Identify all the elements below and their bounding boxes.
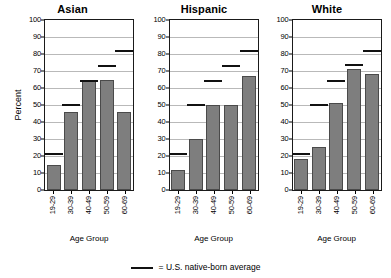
bar (117, 112, 131, 190)
bar (347, 69, 361, 190)
bar-slot (312, 20, 326, 190)
bar (312, 147, 326, 190)
x-axis-title: Age Group (292, 234, 382, 243)
y-tick-label: 70 (158, 67, 166, 75)
y-tick-label: 100 (29, 16, 41, 24)
reference-average-line (204, 80, 222, 82)
reference-average-line (115, 50, 133, 52)
reference-average-line (327, 80, 345, 82)
legend: = U.S. native-born average (0, 263, 391, 272)
x-tick-slot: 60-69 (243, 191, 257, 233)
bar (242, 76, 256, 190)
x-tick-slot: 19-29 (171, 191, 185, 233)
x-tick-label: 60-69 (246, 196, 254, 214)
x-tick-labels: 19-2930-3940-4950-5960-69 (169, 191, 259, 233)
bar-group (293, 20, 381, 190)
bar-slot (47, 20, 61, 190)
x-tick-label: 19-29 (49, 196, 57, 214)
x-tick-label: 30-39 (67, 196, 75, 214)
y-axis: 0102030405060708090100 (150, 19, 169, 191)
y-tick-label: 70 (281, 67, 289, 75)
legend-label: = U.S. native-born average (159, 263, 261, 272)
reference-average-line (169, 153, 187, 155)
y-tick-label: 80 (158, 50, 166, 58)
bar-slot (117, 20, 131, 190)
panel-hispanic: Hispanic 0102030405060708090100 19-2930-… (145, 0, 263, 250)
y-tick-label: 50 (281, 101, 289, 109)
reference-average-line (240, 50, 258, 52)
x-tick-mark (232, 191, 233, 194)
x-tick-slot: 30-39 (64, 191, 78, 233)
x-tick-slot: 19-29 (294, 191, 308, 233)
x-tick-mark (125, 191, 126, 194)
y-axis-label: Percent (14, 89, 23, 120)
x-axis: 19-2930-3940-4950-5960-69 (150, 191, 259, 233)
y-tick-label: 10 (158, 169, 166, 177)
y-tick-label: 40 (281, 118, 289, 126)
bar (47, 165, 61, 191)
reference-average-line (310, 104, 328, 106)
chart-figure: Asian Percent 0102030405060708090100 19-… (0, 0, 391, 278)
legend-line-icon (131, 267, 153, 269)
x-tick-slot: 50-59 (348, 191, 362, 233)
bar (82, 80, 96, 190)
x-tick-slot: 60-69 (366, 191, 380, 233)
x-tick-mark (319, 191, 320, 194)
y-tick-label: 20 (158, 152, 166, 160)
bar-group (170, 20, 258, 190)
x-tick-mark (196, 191, 197, 194)
reference-average-line (363, 50, 381, 52)
x-tick-label: 50-59 (103, 196, 111, 214)
reference-average-line (345, 64, 363, 66)
x-tick-slot: 40-49 (330, 191, 344, 233)
y-tick-label: 90 (281, 33, 289, 41)
y-tick-label: 30 (281, 135, 289, 143)
bar-slot (100, 20, 114, 190)
x-tick-label: 40-49 (210, 196, 218, 214)
bar-slot (64, 20, 78, 190)
y-tick-label: 80 (281, 50, 289, 58)
bar-slot (242, 20, 256, 190)
x-tick-label: 30-39 (315, 196, 323, 214)
x-tick-slot: 50-59 (100, 191, 114, 233)
bar-group (45, 20, 133, 190)
x-tick-label: 40-49 (333, 196, 341, 214)
bar (365, 74, 379, 190)
x-tick-mark (250, 191, 251, 194)
panel-row: Asian Percent 0102030405060708090100 19-… (0, 0, 391, 250)
x-tick-slot: 30-39 (189, 191, 203, 233)
bar-slot (206, 20, 220, 190)
bar (171, 170, 185, 190)
x-tick-label: 40-49 (85, 196, 93, 214)
y-tick-label: 50 (158, 101, 166, 109)
y-axis: 0102030405060708090100 (273, 19, 292, 191)
x-tick-slot: 40-49 (82, 191, 96, 233)
x-tick-slot: 30-39 (312, 191, 326, 233)
x-tick-label: 50-59 (228, 196, 236, 214)
x-tick-label: 60-69 (369, 196, 377, 214)
reference-average-line (292, 153, 310, 155)
bar (189, 139, 203, 190)
x-axis-title: Age Group (44, 234, 134, 243)
plot-wrapper: Percent 0102030405060708090100 (11, 19, 134, 191)
x-tick-mark (178, 191, 179, 194)
y-tick-label: 30 (33, 135, 41, 143)
bar (64, 112, 78, 190)
panel-white: White 0102030405060708090100 19-2930-394… (263, 0, 391, 250)
bar-slot (224, 20, 238, 190)
x-tick-label: 50-59 (351, 196, 359, 214)
bar (329, 103, 343, 190)
bar-slot (171, 20, 185, 190)
x-tick-label: 30-39 (192, 196, 200, 214)
y-tick-label: 20 (281, 152, 289, 160)
reference-average-line (222, 65, 240, 67)
y-tick-label: 40 (33, 118, 41, 126)
x-axis: 19-2930-3940-4950-5960-69 (273, 191, 382, 233)
x-tick-mark (373, 191, 374, 194)
reference-average-line (187, 104, 205, 106)
panel-title: White (312, 3, 342, 19)
y-axis: 0102030405060708090100 (25, 19, 44, 191)
reference-average-line (45, 153, 63, 155)
x-tick-slot: 50-59 (225, 191, 239, 233)
y-tick-label: 60 (33, 84, 41, 92)
